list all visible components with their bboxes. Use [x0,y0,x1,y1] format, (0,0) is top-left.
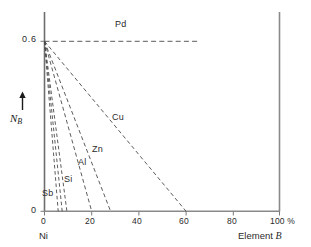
series-label-pd: Pd [115,20,127,29]
series-label-si: Si [64,175,73,184]
data-series-group [45,41,199,211]
x-axis-title: Element B [238,231,282,241]
x-tick-label-80: 80 [227,217,237,226]
series-line-sb [45,41,63,211]
series-line-al [45,41,92,211]
x-tick-label-0: 0 [41,217,46,226]
series-line-extra [45,41,59,211]
y-axis-title: NB [10,112,22,126]
chart-figure: 0.6 0 NB 0 20 40 60 80 100 % Ni Element … [0,0,311,247]
x-axis-origin-label: Ni [39,231,48,241]
x-tick-label-60: 60 [179,217,189,226]
plot-canvas [0,0,311,247]
x-axis-ticks [45,212,280,216]
x-tick-label-40: 40 [132,217,142,226]
series-label-al: Al [78,158,87,167]
y-axis-title-subscript: B [17,117,22,126]
x-axis-title-prefix: Element [238,230,273,241]
y-axis-arrow-icon [19,92,25,111]
series-label-sb: Sb [42,189,54,198]
series-line-cu [45,41,187,211]
series-line-zn [45,41,111,211]
y-tick-label-max: 0.6 [22,35,37,44]
x-axis-title-symbol: B [276,230,282,241]
x-tick-label-20: 20 [85,217,95,226]
series-label-zn: Zn [92,145,103,154]
y-tick-label-min: 0 [31,206,36,215]
x-tick-label-100: 100 % [270,217,295,226]
series-label-cu: Cu [112,113,124,122]
